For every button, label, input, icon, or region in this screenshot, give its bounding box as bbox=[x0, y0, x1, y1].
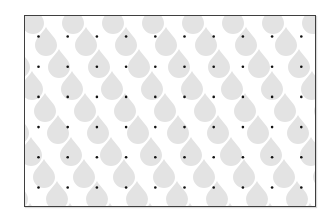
polka-dot bbox=[66, 126, 69, 129]
raindrop-shape bbox=[25, 49, 30, 78]
polka-dot bbox=[183, 126, 186, 129]
polka-dot bbox=[96, 35, 99, 38]
polka-dot bbox=[125, 96, 128, 99]
polka-dot bbox=[271, 35, 274, 38]
polka-dot bbox=[37, 186, 40, 189]
polka-dot bbox=[96, 96, 99, 99]
polka-dot bbox=[300, 96, 303, 99]
raindrop-shape bbox=[25, 115, 29, 144]
polka-dot bbox=[242, 65, 245, 68]
polka-dot bbox=[183, 35, 186, 38]
raindrop-shape bbox=[25, 137, 42, 166]
raindrop-shape bbox=[25, 71, 43, 100]
polka-dot bbox=[66, 156, 69, 159]
polka-dot bbox=[212, 65, 215, 68]
polka-dot bbox=[212, 96, 215, 99]
polka-dot bbox=[125, 186, 128, 189]
polka-dot bbox=[212, 126, 215, 129]
polka-dot bbox=[125, 65, 128, 68]
polka-dot bbox=[96, 156, 99, 159]
polka-dot bbox=[242, 35, 245, 38]
polka-dot bbox=[212, 186, 215, 189]
polka-dot bbox=[271, 96, 274, 99]
polka-dot bbox=[125, 35, 128, 38]
polka-dot bbox=[37, 156, 40, 159]
polka-dot bbox=[300, 126, 303, 129]
polka-dot bbox=[271, 126, 274, 129]
polka-dot bbox=[37, 126, 40, 129]
raindrop-shape bbox=[182, 16, 204, 34]
polka-dot bbox=[66, 96, 69, 99]
polka-dot bbox=[125, 126, 128, 129]
polka-dot bbox=[300, 35, 303, 38]
polka-dot bbox=[300, 186, 303, 189]
polka-dot bbox=[66, 186, 69, 189]
polka-dot bbox=[154, 65, 157, 68]
polka-dot bbox=[37, 65, 40, 68]
raindrop-shape bbox=[25, 181, 28, 206]
polka-dot bbox=[154, 186, 157, 189]
polka-dot bbox=[37, 96, 40, 99]
polka-dot bbox=[154, 126, 157, 129]
raindrop-shape bbox=[142, 16, 164, 34]
polka-dot bbox=[271, 156, 274, 159]
polka-dot bbox=[154, 96, 157, 99]
polka-dot bbox=[242, 186, 245, 189]
raindrop-shape bbox=[25, 16, 44, 34]
polka-dot bbox=[183, 156, 186, 159]
raindrop-shape bbox=[102, 16, 124, 34]
polka-dot bbox=[154, 156, 157, 159]
polka-dot bbox=[154, 35, 157, 38]
polka-dot bbox=[212, 156, 215, 159]
polka-dot bbox=[242, 126, 245, 129]
pattern-canvas bbox=[25, 16, 315, 206]
polka-dot bbox=[96, 126, 99, 129]
pattern-frame bbox=[24, 15, 316, 207]
raindrop-shape bbox=[222, 16, 244, 34]
raindrop-shape bbox=[62, 16, 84, 34]
polka-dot bbox=[212, 35, 215, 38]
polka-dot bbox=[125, 156, 128, 159]
polka-dot bbox=[96, 186, 99, 189]
polka-dot bbox=[66, 65, 69, 68]
polka-dot bbox=[271, 186, 274, 189]
polka-dot bbox=[96, 65, 99, 68]
polka-dot bbox=[37, 35, 40, 38]
polka-dot bbox=[300, 156, 303, 159]
polka-dot bbox=[183, 65, 186, 68]
raindrop-layer bbox=[25, 16, 315, 206]
polka-dot bbox=[66, 35, 69, 38]
raindrop-shape bbox=[302, 16, 315, 34]
polka-dot bbox=[242, 156, 245, 159]
polka-dot bbox=[183, 186, 186, 189]
polka-dot bbox=[300, 65, 303, 68]
raindrop-shape bbox=[25, 203, 41, 206]
raindrop-shape bbox=[262, 16, 284, 34]
polka-dot bbox=[183, 96, 186, 99]
polka-dot bbox=[242, 96, 245, 99]
polka-dot bbox=[271, 65, 274, 68]
